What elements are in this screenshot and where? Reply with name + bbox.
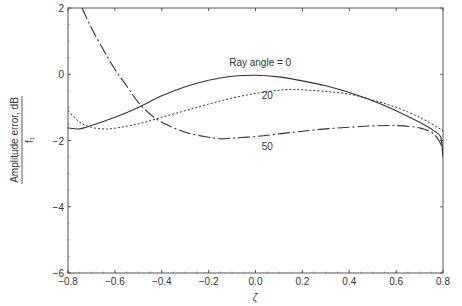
series-50-line (82, 8, 443, 154)
x-tick-label: 0.6 (389, 276, 403, 287)
series-layer (68, 8, 443, 157)
plot-frame (68, 8, 443, 273)
x-tick-label: −0.2 (199, 276, 219, 287)
curve-label: Ray angle = 0 (229, 57, 291, 68)
series-20-line (68, 89, 443, 130)
y-axis-label-denominator: f₁ (24, 136, 35, 143)
y-tick-label: 2 (58, 3, 64, 14)
plot-border (68, 8, 443, 273)
y-tick-label: −2 (53, 136, 65, 147)
x-tick-label: 0.0 (249, 276, 263, 287)
x-tick-label: 0.8 (436, 276, 450, 287)
y-tick-label: −4 (53, 202, 65, 213)
y-axis-ticks: −6−4−202 (53, 3, 443, 279)
curve-label: 20 (262, 90, 274, 101)
series-ray-angle-0-line (68, 75, 443, 157)
y-tick-label: 0 (58, 69, 64, 80)
curve-label: 50 (262, 141, 274, 152)
amplitude-error-chart: −0.8−0.6−0.4−0.20.00.20.40.60.8 −6−4−202… (0, 0, 462, 306)
y-axis-label-numerator: Amplitude error, dB (9, 97, 20, 183)
y-tick-label: −6 (53, 268, 65, 279)
x-tick-label: 0.2 (295, 276, 309, 287)
x-axis-label: ζ (253, 292, 259, 304)
x-tick-label: −0.6 (105, 276, 125, 287)
y-axis-label: Amplitude error, dB f₁ (9, 96, 35, 184)
x-tick-label: −0.4 (152, 276, 172, 287)
x-tick-label: 0.4 (342, 276, 356, 287)
x-axis-ticks: −0.8−0.6−0.4−0.20.00.20.40.60.8 (58, 8, 450, 287)
